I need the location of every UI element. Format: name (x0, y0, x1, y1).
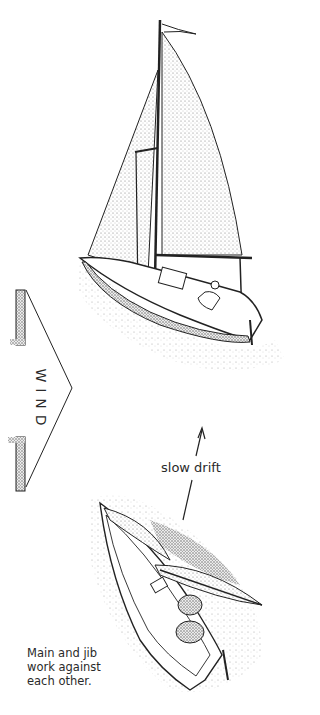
caption-line-1: Main and jib (27, 646, 107, 660)
caption-line-3: each other. (27, 674, 107, 688)
caption-line-2: work against (27, 660, 107, 674)
sailboat-top (78, 20, 285, 370)
wind-label: WIND (26, 355, 56, 445)
sailboat-bottom (90, 495, 262, 692)
figure-caption: Main and jib work against each other. (27, 646, 107, 688)
wind-label-text: WIND (33, 368, 49, 431)
drift-label: slow drift (161, 460, 221, 475)
